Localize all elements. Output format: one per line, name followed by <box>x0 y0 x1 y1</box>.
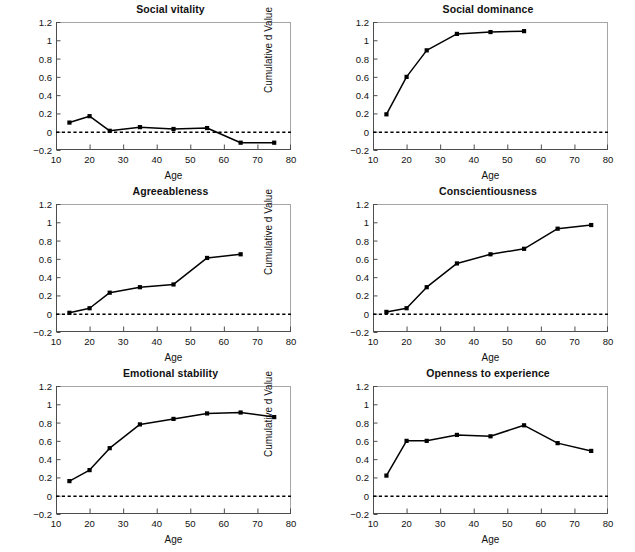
data-point-marker <box>404 306 408 310</box>
data-point-marker <box>171 417 175 421</box>
y-tick-label: 0.2 <box>356 472 369 483</box>
data-point-marker <box>488 252 492 256</box>
plot-canvas <box>373 22 608 150</box>
data-point-marker <box>67 479 71 483</box>
data-point-marker <box>455 433 459 437</box>
data-point-marker <box>272 141 276 145</box>
y-tick-label: 0.8 <box>356 235 369 246</box>
y-tick-label: 0.6 <box>39 71 52 82</box>
data-point-marker <box>425 48 429 52</box>
y-tick-label: 1 <box>47 399 52 410</box>
y-tick-label: 0.8 <box>39 53 52 64</box>
data-point-marker <box>205 256 209 260</box>
y-tick-label: 0.4 <box>39 272 52 283</box>
x-tick-label: 50 <box>502 154 513 165</box>
y-tick-label: 0 <box>47 308 52 319</box>
y-tick-label: 0.2 <box>39 290 52 301</box>
y-tick-label: 0.8 <box>356 417 369 428</box>
chart-panel: Openness to experienceCumulative d Value… <box>317 364 635 552</box>
x-tick-label: 20 <box>84 154 95 165</box>
data-point-marker <box>404 439 408 443</box>
x-tick-label: 30 <box>435 518 446 529</box>
data-point-marker <box>87 306 91 310</box>
data-point-marker <box>239 252 243 256</box>
y-tick-label: 0.4 <box>356 90 369 101</box>
y-tick-label: 1.2 <box>39 17 52 28</box>
data-point-marker <box>87 114 91 118</box>
x-tick-label: 50 <box>185 518 196 529</box>
chart-panel: ConscientiousnessCumulative d Value1.210… <box>317 182 635 364</box>
x-tick-label: 60 <box>536 336 547 347</box>
panel-title: Conscientiousness <box>317 185 635 197</box>
y-axis-label: Cumulative d Value <box>263 170 277 294</box>
plot-canvas <box>56 204 291 332</box>
data-point-marker <box>171 282 175 286</box>
plot-area: 1.210.80.60.40.20−0.21020304050607080 <box>373 22 608 150</box>
data-point-marker <box>171 127 175 131</box>
data-point-marker <box>556 227 560 231</box>
y-tick-label: −0.2 <box>350 327 369 338</box>
x-tick-label: 10 <box>51 336 62 347</box>
y-tick-label: 1.2 <box>356 199 369 210</box>
y-tick-label: 1 <box>47 217 52 228</box>
series-line <box>69 254 240 313</box>
x-tick-label: 10 <box>368 336 379 347</box>
data-point-marker <box>589 223 593 227</box>
y-tick-label: 1 <box>364 35 369 46</box>
y-axis-label: Cumulative d Value <box>263 352 277 476</box>
data-point-marker <box>108 291 112 295</box>
x-tick-label: 30 <box>118 336 129 347</box>
x-tick-label: 10 <box>51 518 62 529</box>
x-tick-label: 70 <box>569 336 580 347</box>
x-tick-label: 50 <box>502 518 513 529</box>
y-tick-label: 1 <box>364 217 369 228</box>
y-tick-label: 0.6 <box>39 435 52 446</box>
plot-area: 1.210.80.60.40.20−0.21020304050607080 <box>373 386 608 514</box>
x-tick-label: 10 <box>368 154 379 165</box>
data-point-marker <box>239 410 243 414</box>
y-tick-label: 1 <box>364 399 369 410</box>
y-tick-label: 0.2 <box>356 108 369 119</box>
x-axis-label: Age <box>373 170 608 181</box>
plot-area: 1.210.80.60.40.20−0.21020304050607080 <box>56 386 291 514</box>
x-tick-label: 80 <box>603 336 614 347</box>
x-tick-label: 40 <box>468 518 479 529</box>
y-tick-label: −0.2 <box>33 509 52 520</box>
x-tick-label: 30 <box>435 154 446 165</box>
y-tick-label: 0.8 <box>39 235 52 246</box>
x-tick-label: 40 <box>151 154 162 165</box>
y-tick-label: −0.2 <box>33 145 52 156</box>
plot-canvas <box>373 386 608 514</box>
x-tick-label: 80 <box>603 518 614 529</box>
data-point-marker <box>425 285 429 289</box>
y-tick-label: 0.6 <box>356 71 369 82</box>
y-tick-label: 0.8 <box>39 417 52 428</box>
x-tick-label: 80 <box>286 336 297 347</box>
x-tick-label: 10 <box>368 518 379 529</box>
data-point-marker <box>384 474 388 478</box>
x-tick-label: 70 <box>252 336 263 347</box>
x-tick-label: 60 <box>536 518 547 529</box>
series-line <box>386 425 591 475</box>
x-tick-label: 70 <box>569 154 580 165</box>
y-tick-label: 0.4 <box>356 272 369 283</box>
data-point-marker <box>522 247 526 251</box>
data-point-marker <box>488 434 492 438</box>
multi-panel-line-chart-figure: Social vitalityCumulative d Value1.210.8… <box>0 0 635 552</box>
data-point-marker <box>205 411 209 415</box>
x-tick-label: 80 <box>603 154 614 165</box>
plot-canvas <box>56 386 291 514</box>
x-tick-label: 30 <box>118 518 129 529</box>
y-tick-label: 0 <box>364 126 369 137</box>
x-tick-label: 60 <box>219 518 230 529</box>
y-tick-label: 1.2 <box>39 381 52 392</box>
y-tick-label: 0.8 <box>356 53 369 64</box>
x-tick-label: 20 <box>84 518 95 529</box>
data-point-marker <box>455 261 459 265</box>
chart-panel: Social dominanceCumulative d Value1.210.… <box>317 0 635 182</box>
data-point-marker <box>384 310 388 314</box>
x-tick-label: 60 <box>219 154 230 165</box>
x-tick-label: 50 <box>185 336 196 347</box>
y-tick-label: 0.6 <box>39 253 52 264</box>
x-tick-label: 50 <box>502 336 513 347</box>
